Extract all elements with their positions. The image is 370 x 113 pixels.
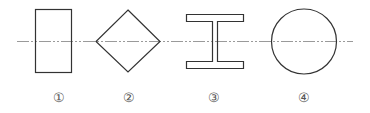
label-3: ③ bbox=[204, 89, 224, 107]
label-1: ① bbox=[49, 89, 69, 107]
label-4: ④ bbox=[294, 89, 314, 107]
label-2: ② bbox=[119, 89, 139, 107]
